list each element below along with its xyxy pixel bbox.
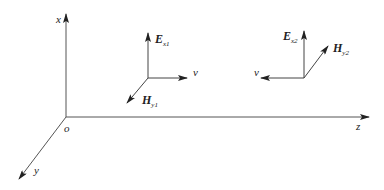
wave2-e-subscript: x2 [291, 37, 298, 45]
wave1-h-symbol: H [142, 93, 151, 107]
x-axis-label: x [56, 14, 61, 25]
wave2-h-subscript: y2 [342, 49, 349, 57]
y-axis [19, 117, 66, 179]
wave2-h-vector [304, 46, 328, 78]
wave2-e-label: Ex2 [283, 30, 298, 45]
wave2-h-label: Hy2 [333, 42, 349, 57]
y-axis-label: y [34, 165, 39, 176]
wave1-e-label: Ex1 [155, 33, 170, 48]
wave1-h-label: Hy1 [142, 94, 158, 109]
origin-label: o [64, 123, 70, 134]
wave2-h-symbol: H [333, 41, 342, 55]
z-axis-label: z [356, 121, 360, 132]
em-wave-diagram: x o y z Ex1 v Hy1 Ex2 v Hy2 [0, 0, 384, 190]
wave1-e-subscript: x1 [163, 40, 170, 48]
wave1-e-symbol: E [155, 32, 163, 46]
diagram-lines [0, 0, 384, 190]
wave2-e-symbol: E [283, 29, 291, 43]
wave1-v-label: v [193, 67, 198, 78]
wave2-v-label: v [254, 67, 259, 78]
wave1-h-subscript: y1 [151, 101, 158, 109]
